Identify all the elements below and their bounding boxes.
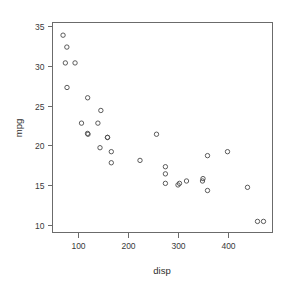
data-point <box>109 149 113 153</box>
data-point <box>138 158 142 162</box>
y-axis-ticks <box>48 27 53 226</box>
data-point <box>245 185 249 189</box>
data-point <box>205 188 209 192</box>
data-point <box>65 45 69 49</box>
y-tick-label: 30 <box>35 62 45 72</box>
data-point <box>99 108 103 112</box>
y-tick-label: 35 <box>35 22 45 32</box>
x-axis-tick-labels: 100200300400 <box>71 241 235 251</box>
data-point <box>163 172 167 176</box>
x-tick-label: 300 <box>171 241 185 251</box>
data-point-layer <box>61 33 266 224</box>
data-point <box>96 121 100 125</box>
y-axis-title: mpg <box>13 119 24 137</box>
data-point <box>163 181 167 185</box>
data-point <box>163 165 167 169</box>
plot-frame <box>53 23 273 233</box>
data-point <box>65 85 69 89</box>
y-tick-label: 25 <box>35 102 45 112</box>
data-point <box>109 161 113 165</box>
data-point <box>98 146 102 150</box>
data-point <box>85 96 89 100</box>
data-point <box>205 153 209 157</box>
data-point <box>105 135 109 139</box>
data-point <box>154 132 158 136</box>
y-tick-label: 15 <box>35 181 45 191</box>
x-tick-label: 400 <box>221 241 235 251</box>
data-point <box>184 179 188 183</box>
y-tick-label: 20 <box>35 141 45 151</box>
x-axis-ticks <box>79 233 229 238</box>
y-tick-label: 10 <box>35 221 45 231</box>
y-axis-tick-labels: 101520253035 <box>35 22 45 231</box>
x-tick-label: 200 <box>121 241 135 251</box>
data-point <box>225 149 229 153</box>
data-point <box>63 61 67 65</box>
data-point <box>255 219 259 223</box>
data-point <box>79 121 83 125</box>
x-axis-title: disp <box>153 265 170 276</box>
data-point <box>61 33 65 37</box>
scatter-plot-figure: 100200300400 101520253035 disp mpg <box>0 0 287 287</box>
data-point <box>73 61 77 65</box>
data-point <box>261 219 265 223</box>
chart-canvas: 100200300400 101520253035 disp mpg <box>0 0 287 287</box>
x-tick-label: 100 <box>71 241 85 251</box>
